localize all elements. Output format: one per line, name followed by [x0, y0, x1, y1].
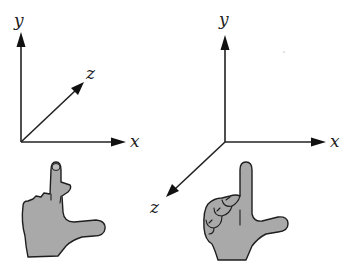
left-handed-axes: y x z	[13, 10, 140, 151]
right-y-label: y	[218, 9, 229, 29]
left-hand-illustration	[22, 162, 105, 257]
right-hand-illustration	[204, 162, 288, 260]
right-z-arrowhead	[166, 184, 179, 197]
right-x-label: x	[330, 131, 340, 151]
speck-artifact	[283, 51, 284, 52]
left-y-label: y	[13, 10, 24, 30]
left-x-label: x	[130, 131, 140, 151]
left-x-arrowhead	[111, 138, 126, 147]
right-x-arrowhead	[311, 138, 326, 147]
right-z-axis	[175, 142, 225, 189]
coordinate-systems-diagram: y x z y x z	[0, 0, 341, 270]
left-z-axis	[21, 90, 76, 142]
right-z-label: z	[149, 197, 160, 217]
right-y-arrowhead	[221, 35, 230, 50]
left-z-label: z	[85, 63, 96, 83]
left-y-arrowhead	[17, 32, 26, 47]
